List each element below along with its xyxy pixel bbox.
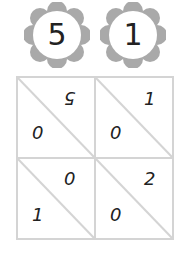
cell-2-top: 1 xyxy=(144,88,155,109)
cell-3-bottom: 1 xyxy=(32,204,43,225)
flower-number: 1 xyxy=(100,2,166,68)
cell-4-bottom: 0 xyxy=(110,204,121,225)
cell-2-bottom: 0 xyxy=(110,122,121,143)
flower-digit-2: 1 xyxy=(100,2,166,68)
flower-number: 5 xyxy=(24,2,90,68)
flower-digit-1: 5 xyxy=(24,2,90,68)
cell-4-top: 2 xyxy=(144,168,155,189)
cell-1-top: 5 xyxy=(64,88,75,109)
lattice-grid: 5 0 1 0 0 1 2 0 xyxy=(16,76,174,240)
cell-1-bottom: 0 xyxy=(32,122,43,143)
cell-3-top: 0 xyxy=(64,168,75,189)
